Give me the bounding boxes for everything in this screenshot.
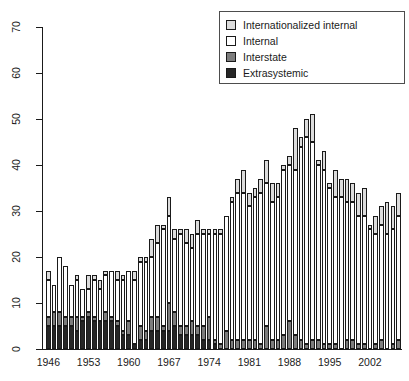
bar-segment-internationalized-internal	[167, 197, 172, 215]
bar-segment-internationalized-internal	[144, 257, 149, 262]
bar-segment-internationalized-internal	[92, 275, 97, 280]
bar-segment-internationalized-internal	[339, 179, 344, 197]
bar-segment-interstate	[46, 317, 51, 326]
bar-segment-internal	[293, 170, 298, 336]
bar-segment-internal	[213, 234, 218, 340]
legend-swatch-extrasystemic	[226, 68, 236, 78]
bar-1957	[109, 27, 114, 349]
bar-segment-internationalized-internal	[379, 206, 384, 224]
bar-segment-interstate	[345, 340, 350, 349]
bar-segment-internationalized-internal	[362, 188, 367, 216]
bar-segment-internal	[253, 197, 258, 340]
bar-1962	[138, 27, 143, 349]
bar-segment-internal	[247, 206, 252, 339]
bar-segment-internal	[373, 234, 378, 344]
bar-segment-internationalized-internal	[218, 229, 223, 234]
bar-segment-extrasystemic	[161, 331, 166, 349]
bar-segment-internal	[144, 262, 149, 331]
bar-segment-internationalized-internal	[299, 137, 304, 146]
bar-segment-interstate	[299, 340, 304, 349]
y-axis-tick-label: 40	[0, 158, 32, 172]
bar-segment-internal	[339, 197, 344, 349]
bar-segment-extrasystemic	[201, 340, 206, 349]
bar-segment-interstate	[63, 317, 68, 326]
bar-segment-internal	[109, 271, 114, 317]
bar-segment-extrasystemic	[184, 335, 189, 349]
bar-segment-internationalized-internal	[373, 216, 378, 234]
bar-segment-interstate	[379, 340, 384, 349]
bar-1969	[178, 27, 183, 349]
bar-segment-extrasystemic	[57, 326, 62, 349]
bar-segment-interstate	[172, 312, 177, 326]
bar-1952	[80, 27, 85, 349]
bar-segment-extrasystemic	[167, 331, 172, 349]
bar-segment-internal	[276, 197, 281, 340]
bar-segment-internal	[138, 262, 143, 326]
bar-segment-interstate	[218, 344, 223, 349]
x-axis-tick-label: 1988	[278, 356, 301, 368]
bar-1964	[149, 27, 154, 349]
bar-segment-internal	[132, 280, 137, 344]
legend: Internationalized internal Internal Inte…	[219, 11, 405, 84]
bar-segment-internationalized-internal	[178, 229, 183, 234]
bar-segment-interstate	[293, 335, 298, 349]
bar-segment-internationalized-internal	[132, 271, 137, 280]
bar-1960	[126, 27, 131, 349]
bar-segment-interstate	[155, 317, 160, 331]
bar-1946	[46, 27, 51, 349]
x-axis-tick-label: 2002	[358, 356, 381, 368]
bar-segment-internal	[350, 202, 355, 340]
bar-segment-internationalized-internal	[253, 188, 258, 197]
bar-segment-extrasystemic	[92, 321, 97, 349]
bar-1947	[52, 27, 57, 349]
bar-segment-interstate	[69, 317, 74, 326]
bar-segment-internationalized-internal	[184, 229, 189, 243]
bar-segment-internationalized-internal	[75, 275, 80, 280]
legend-label: Extrasystemic	[243, 67, 308, 79]
legend-swatch-internal	[226, 36, 236, 46]
bar-segment-extrasystemic	[80, 321, 85, 349]
bar-segment-interstate	[270, 340, 275, 349]
bar-segment-interstate	[138, 326, 143, 340]
bar-segment-internal	[155, 243, 160, 317]
bar-segment-interstate	[109, 317, 114, 322]
bar-segment-internal	[69, 285, 74, 317]
bar-segment-internal	[316, 165, 321, 340]
bar-segment-internal	[195, 234, 200, 326]
bar-segment-internal	[299, 147, 304, 340]
bar-segment-extrasystemic	[52, 326, 57, 349]
bar-segment-internal	[287, 165, 292, 321]
x-axis-line	[42, 349, 402, 350]
bar-segment-interstate	[121, 331, 126, 336]
bar-segment-internal	[167, 216, 172, 303]
bar-segment-extrasystemic	[138, 340, 143, 349]
bar-segment-interstate	[327, 344, 332, 349]
bar-segment-internationalized-internal	[345, 179, 350, 202]
bar-segment-interstate	[201, 326, 206, 340]
bar-segment-internationalized-internal	[201, 229, 206, 234]
bar-segment-internationalized-internal	[155, 225, 160, 243]
bar-1950	[69, 27, 74, 349]
bar-segment-interstate	[126, 321, 131, 335]
bar-segment-extrasystemic	[86, 317, 91, 349]
legend-swatch-interstate	[226, 52, 236, 62]
bar-segment-internationalized-internal	[333, 170, 338, 198]
bar-segment-internal	[63, 266, 68, 317]
bar-segment-internal	[235, 193, 240, 340]
bar-1953	[86, 27, 91, 349]
bar-segment-internal	[270, 202, 275, 340]
bar-segment-extrasystemic	[63, 326, 68, 349]
bar-segment-interstate	[373, 344, 378, 349]
bar-segment-interstate	[80, 317, 85, 322]
bar-1959	[121, 27, 126, 349]
bar-segment-interstate	[149, 317, 154, 331]
bar-segment-extrasystemic	[207, 340, 212, 349]
y-axis-tick-label: 50	[0, 112, 32, 126]
bar-segment-interstate	[396, 340, 401, 349]
bar-segment-internal	[207, 234, 212, 317]
bar-segment-internal	[281, 170, 286, 336]
y-axis-tick-label: 60	[0, 66, 32, 80]
legend-item: Extrasystemic	[226, 65, 404, 81]
bar-segment-internal	[345, 202, 350, 340]
bar-segment-internal	[322, 170, 327, 345]
